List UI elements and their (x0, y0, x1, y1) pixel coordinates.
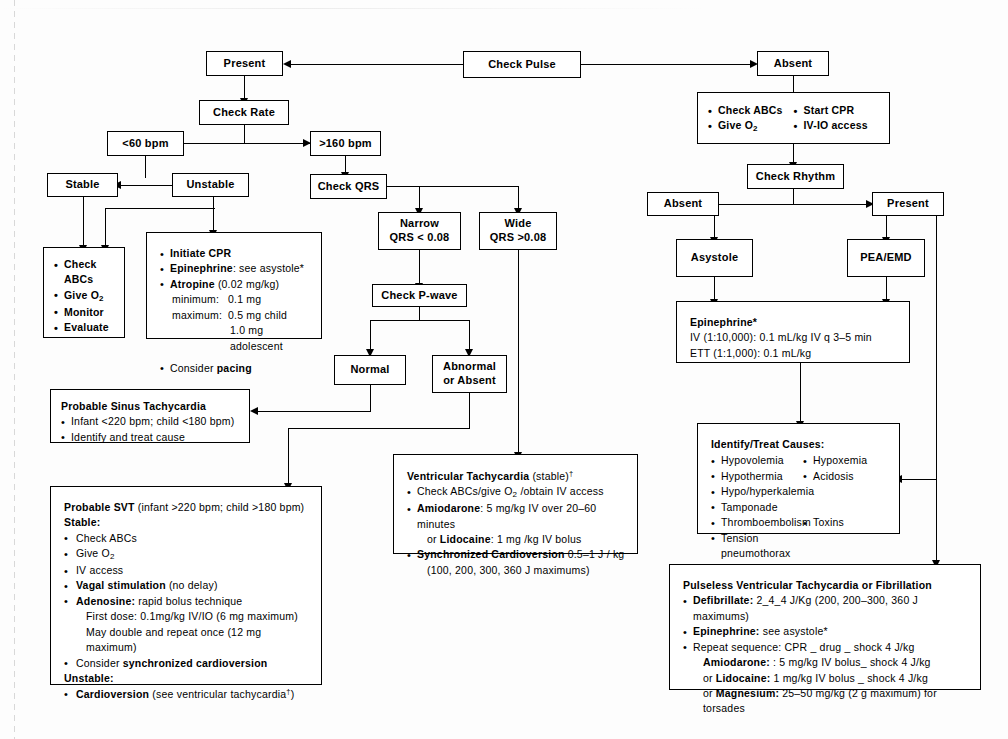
svt-unstable-item: Cardioversion (see ventricular tachycard… (64, 686, 310, 702)
pulseless-amiodarone-rest: : 5 mg/kg IV bolus_ shock 4 J/kg (770, 656, 931, 668)
node-narrow-qrs[interactable]: Narrow QRS < 0.08 (378, 212, 461, 250)
svt-cardioversion-label: Cardioversion (76, 688, 149, 700)
node-abnormal-pwave[interactable]: Abnormal or Absent (432, 355, 507, 393)
vt-sync-label: Synchronized Cardioversion (417, 548, 565, 560)
causes-col-b: Hypoxemia Acidosis Toxins (803, 453, 888, 561)
brady-maximum-row: maximum: 0.5 mg child (160, 308, 310, 323)
svt-cardioversion-rest: (see ventricular tachycardia (149, 688, 286, 700)
connector-narrow-to-pwave (419, 250, 420, 285)
node-narrow-qrs-line1: Narrow (400, 217, 439, 231)
node-check-rhythm[interactable]: Check Rhythm (747, 164, 844, 189)
node-asystole[interactable]: Asystole (676, 239, 753, 277)
node-unstable[interactable]: Unstable (172, 173, 249, 197)
sinus-line-0: Infant <220 bpm; child <180 bpm) (61, 414, 239, 429)
connector-qrs-to-narrow (419, 186, 420, 210)
vt-lidocaine-rest: : 1 mg /kg IV bolus (491, 533, 582, 545)
brady-maximum-value2: 1.0 mg adolescent (160, 323, 310, 354)
arrest-item-iv-io: IV-IO access (794, 118, 880, 133)
svt-vagal-rest: (no delay) (166, 579, 218, 591)
connector-unstable-left-run (105, 208, 215, 209)
brady-minimum-label: minimum: (172, 292, 228, 307)
pulseless-line-4: Amiodarone: : 5 mg/kg IV bolus_ shock 4 … (683, 655, 969, 670)
cause-thromboembolism: Thromboembolism (711, 515, 803, 530)
arrowhead-present (283, 60, 291, 68)
svt-unstable-label: Unstable: (64, 671, 310, 686)
node-stable[interactable]: Stable (47, 173, 118, 197)
vt-title-bold: Ventricular Tachycardia (407, 470, 529, 482)
brady-epi-rest: : see asystole* (233, 262, 304, 274)
node-absent-pulse[interactable]: Absent (757, 51, 829, 76)
svt-vagal-label: Vagal stimulation (76, 579, 166, 591)
connector-abnormal-to-svt (288, 428, 289, 485)
node-present[interactable]: Present (206, 51, 283, 76)
connector-pea-to-epi (886, 277, 887, 301)
connector-present-to-pea (886, 216, 887, 239)
box-stable-supportive-care: Check ABCs Give O2 Monitor Evaluate (43, 247, 125, 338)
svt-stable-item-1: Give O2 (64, 546, 310, 563)
node-bpm-low[interactable]: <60 bpm (107, 131, 184, 156)
node-check-qrs[interactable]: Check QRS (310, 174, 387, 199)
connector-qrs-split (387, 186, 519, 187)
node-bpm-high[interactable]: >160 bpm (310, 131, 381, 156)
svt-adenosine-label: Adenosine: (76, 595, 135, 607)
svt-stable-item-3: Vagal stimulation (no delay) (64, 578, 310, 593)
vt-line-4: Synchronized Cardioversion 0.5–1 J / kg (407, 547, 626, 562)
connector-abnormal-drop (469, 393, 470, 429)
node-normal-pwave[interactable]: Normal (334, 355, 406, 385)
pulseless-amiodarone-label: Amiodarone: (703, 656, 770, 668)
vt-sync-rest: 0.5–1 J / kg (565, 548, 625, 560)
node-rhythm-present[interactable]: Present (872, 192, 944, 216)
svt-stable-item-0: Check ABCs (64, 531, 310, 546)
pals-algorithm-diagram: Present Check Pulse Absent Check Rate <6… (0, 0, 1008, 739)
connector-pulse-to-absent (580, 64, 752, 65)
brady-atropine-label: Atropine (170, 278, 215, 290)
causes-col-b-spacer-1 (803, 484, 888, 499)
node-pea-emd[interactable]: PEA/EMD (847, 239, 925, 277)
node-wide-qrs[interactable]: Wide QRS >0.08 (479, 212, 557, 250)
causes-col-b-spacer-2 (803, 500, 888, 515)
cause-tension-pneumothorax: Tension pneumothorax (711, 531, 803, 562)
epi-title: Epinephrine* (690, 315, 898, 330)
connector-normal-to-sinus (256, 411, 371, 412)
pulseless-epi-rest: see asystole* (760, 625, 828, 637)
pulseless-magnesium-prefix: or (703, 687, 716, 699)
svt-adenosine-sub2: May double and repeat once (12 mg maximu… (64, 625, 310, 656)
sinus-title: Probable Sinus Tachycardia (61, 399, 239, 414)
pulseless-line-3: Repeat sequence: CPR _ drug _ shock 4 J/… (683, 640, 969, 655)
connector-pwave-stem (419, 307, 420, 321)
causes-title: Identify/Treat Causes: (711, 437, 888, 452)
svt-consider-bold: synchronized cardioversion (123, 657, 268, 669)
connector-rail-into-causes (900, 479, 937, 480)
box-probable-sinus-tachycardia: Probable Sinus Tachycardia Infant <220 b… (50, 389, 250, 443)
box-identify-treat-causes: Identify/Treat Causes: Hypovolemia Hypot… (697, 423, 900, 534)
brady-minimum-value: 0.1 mg (228, 292, 261, 307)
svt-title-rest: (infant >220 bpm; child >180 bpm) (135, 501, 305, 513)
vt-line-5: (100, 200, 300, 360 J maximums) (407, 563, 626, 578)
connector-pwave-split (370, 320, 470, 321)
cause-hypoxemia: Hypoxemia (803, 453, 888, 468)
node-check-pulse[interactable]: Check Pulse (463, 51, 581, 78)
vt-line-1: Check ABCs/give O2 /obtain IV access (407, 484, 626, 501)
pulseless-magnesium-label: Magnesium: (716, 687, 779, 699)
pulseless-lidocaine-prefix: or (703, 672, 716, 684)
connector-present-right-rail (936, 216, 937, 480)
box-pulseless-vt-fibrillation: Pulseless Ventricular Tachycardia or Fib… (669, 564, 981, 690)
connector-stable-to-abc (83, 197, 84, 247)
node-rhythm-absent[interactable]: Absent (647, 192, 719, 216)
brady-consider-prefix: Consider (170, 362, 217, 374)
node-check-rate[interactable]: Check Rate (199, 100, 289, 125)
connector-present-to-checkrate (244, 76, 245, 100)
node-check-pwave[interactable]: Check P-wave (372, 284, 467, 307)
pulseless-epi-label: Epinephrine: (693, 625, 760, 637)
arrest-item-give-o2: Give O2 (708, 118, 794, 135)
brady-cpr-label: Initiate CPR (170, 247, 231, 259)
pulseless-line-1: Defibrillate: 2_4_4 J/Kg (200, 200–300, … (683, 593, 969, 624)
svt-stable-item-2: IV access (64, 563, 310, 578)
brady-item-pacing: Consider pacing (160, 361, 310, 376)
pulseless-line-5: or Lidocaine: 1 mg/kg IV bolus _ shock 4… (683, 671, 969, 686)
brady-item-epi: Epinephrine: see asystole* (160, 261, 310, 276)
node-abnormal-line1: Abnormal (443, 360, 496, 374)
vt-line-2: Amiodarone: 5 mg/kg IV over 20–60 minute… (407, 501, 626, 532)
vt-lidocaine-label: Lidocaine (440, 533, 491, 545)
pulseless-title: Pulseless Ventricular Tachycardia or Fib… (683, 578, 969, 593)
